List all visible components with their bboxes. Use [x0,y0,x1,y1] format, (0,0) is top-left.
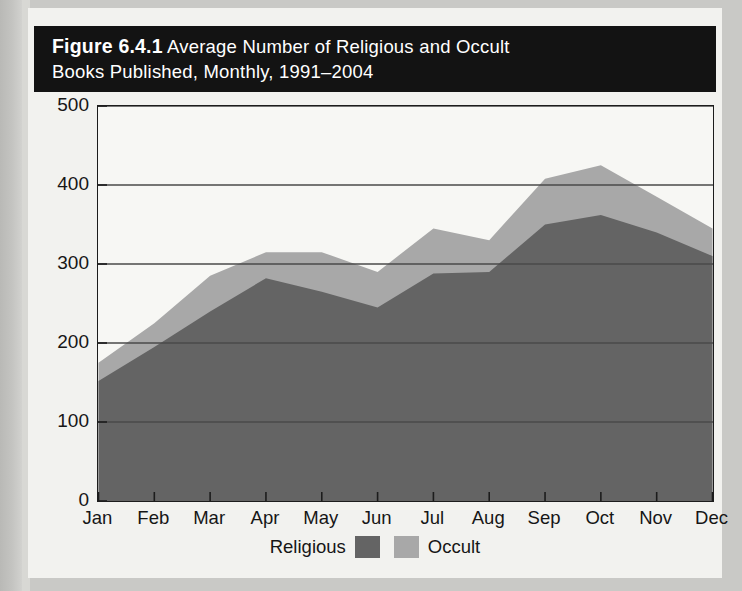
legend-swatch-occult [394,536,419,558]
y-axis-tick-label: 0 [28,489,89,511]
x-axis-tick-label: Jan [83,507,113,529]
y-axis-tick-label: 400 [28,173,89,195]
x-axis-tick-label: Mar [193,507,225,529]
legend-item-occult: Occult [394,536,480,558]
figure-title-rest: Average Number of Religious and Occult [163,36,510,57]
figure-title-line-2: Books Published, Monthly, 1991–2004 [52,59,698,84]
page-edge-shadow [0,0,22,591]
x-axis-tick-label: Sep [528,507,561,529]
x-axis-tick-label: Oct [585,507,614,529]
legend-label-religious: Religious [270,536,346,558]
x-axis-tick-label: Apr [251,507,280,529]
legend-item-religious: Religious [270,536,380,558]
x-axis-tick-label: Jun [362,507,392,529]
x-axis-tick-label: May [303,507,338,529]
stacked-area-chart [98,106,713,501]
legend-swatch-religious [355,536,380,558]
figure-number: Figure 6.4.1 [52,35,163,57]
plot-area [97,105,714,502]
x-axis-tick-label: Nov [639,507,672,529]
figure-card: Figure 6.4.1 Average Number of Religious… [28,8,722,578]
y-axis-tick-label: 100 [28,410,89,432]
figure-title-bar: Figure 6.4.1 Average Number of Religious… [34,26,716,92]
x-axis-tick-label: Feb [137,507,169,529]
y-axis-tick-label: 500 [28,94,89,116]
y-axis-tick-label: 200 [28,331,89,353]
chart-legend: Religious Occult [28,536,722,558]
x-axis-tick-label: Aug [472,507,505,529]
y-axis-tick-label: 300 [28,252,89,274]
x-axis-tick-label: Dec [695,507,728,529]
figure-page: Figure 6.4.1 Average Number of Religious… [0,0,742,591]
x-axis-tick-label: Jul [421,507,445,529]
figure-title-line-1: Figure 6.4.1 Average Number of Religious… [52,34,698,59]
legend-label-occult: Occult [428,536,480,558]
